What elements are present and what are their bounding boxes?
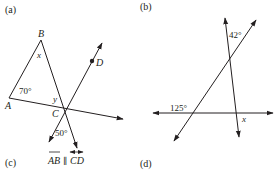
point-c-label: C [52,108,59,119]
panel-a-label: (a) [5,4,16,16]
point-d-label: D [95,57,104,68]
angle-42-label: 42° [229,30,242,40]
point-d-dot [90,59,94,63]
caption-c: (c) AB ∥ CD [5,152,85,169]
panel-b-label: (b) [140,1,152,13]
point-a-label: A [4,100,12,111]
panel-b: (b) 42° 125° x [140,1,273,141]
caption-c-label: (c) [5,157,16,169]
point-b-label: B [38,28,44,39]
angle-x-label: x [36,50,41,60]
panel-a: (a) B x 70° A y C D 50° [4,4,123,148]
geometry-figure: (a) B x 70° A y C D 50° (c) AB ∥ CD (b) [0,0,276,173]
angle-70-label: 70° [19,86,32,96]
condition-cd: CD [70,155,85,166]
parallel-symbol: ∥ [63,156,67,166]
caption-d-label: (d) [140,158,152,170]
angle-y-label: y [52,94,57,104]
angle-50-label: 50° [55,128,68,138]
condition-ab: AB [47,155,60,166]
angle-125-label: 125° [170,103,188,113]
angle-x-label-b: x [241,114,246,124]
